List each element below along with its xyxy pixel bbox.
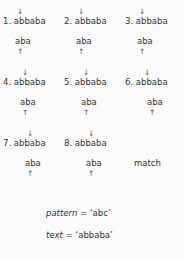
legend-pattern-name: pattern (46, 208, 77, 218)
step-number: 6. (125, 77, 133, 87)
up-arrow-icon: ↑ (83, 109, 89, 116)
step-cell-3: ↓ 3. abbaba aba ↑ (122, 8, 183, 66)
step-text-line: 2. abbaba (64, 16, 107, 27)
step-text-line: 5. abbaba (64, 77, 107, 88)
steps-grid: ↓ 1. abbaba aba ↑ ↓ 2. abbaba aba ↑ ↓ 3.… (0, 8, 183, 191)
step-number: 2. (64, 16, 72, 26)
step-cell-4: ↓ 4. abbaba aba ↑ (0, 69, 61, 127)
up-arrow-icon: ↑ (17, 48, 23, 55)
legend-text-value: ‘abbaba’ (75, 230, 112, 240)
legend-text-equals: = (63, 230, 76, 240)
step-text-line: 8. abbaba (64, 138, 107, 149)
legend-pattern-equals: = (77, 208, 90, 218)
pattern-window: aba (86, 158, 102, 169)
down-arrow-icon: ↓ (139, 8, 145, 15)
down-arrow-icon: ↓ (144, 69, 150, 76)
legend-pattern-line: pattern = ‘abc’ (46, 208, 183, 219)
pattern-window: aba (76, 36, 92, 47)
up-arrow-icon: ↑ (22, 109, 28, 116)
up-arrow-icon: ↑ (78, 48, 84, 55)
step-cell-2: ↓ 2. abbaba aba ↑ (61, 8, 122, 66)
step-text: abbaba (75, 138, 107, 148)
step-cell-1: ↓ 1. abbaba aba ↑ (0, 8, 61, 66)
step-text-line: 4. abbaba (3, 77, 46, 88)
step-cell-8: ↓ 8. abbaba aba ↑ (61, 130, 122, 188)
steps-row: ↓ 4. abbaba aba ↑ ↓ 5. abbaba aba ↑ ↓ 6.… (0, 69, 183, 127)
step-text: abbaba (14, 138, 46, 148)
step-text: abbaba (136, 77, 168, 87)
step-number: 7. (3, 138, 11, 148)
pattern-window: aba (137, 36, 153, 47)
up-arrow-icon: ↑ (149, 109, 155, 116)
down-arrow-icon: ↓ (83, 69, 89, 76)
legend-pattern-value: ‘abc’ (90, 208, 111, 218)
up-arrow-icon: ↑ (139, 48, 145, 55)
up-arrow-icon: ↑ (27, 170, 33, 177)
step-text: abbaba (75, 16, 107, 26)
down-arrow-icon: ↓ (78, 8, 84, 15)
steps-row: ↓ 7. abbaba aba ↑ ↓ 8. abbaba aba ↑ matc… (0, 130, 183, 188)
step-text: abbaba (14, 77, 46, 87)
step-text: abbaba (75, 77, 107, 87)
pattern-window: aba (147, 97, 163, 108)
step-number: 3. (125, 16, 133, 26)
down-arrow-icon: ↓ (17, 8, 23, 15)
match-label: match (134, 158, 161, 169)
pattern-window: aba (81, 97, 97, 108)
pattern-window: aba (20, 97, 36, 108)
step-cell-6: ↓ 6. abbaba aba ↑ (122, 69, 183, 127)
step-number: 4. (3, 77, 11, 87)
legend-text-name: text (46, 230, 63, 240)
step-text-line: 6. abbaba (125, 77, 168, 88)
step-number: 5. (64, 77, 72, 87)
legend: pattern = ‘abc’ text = ‘abbaba’ (0, 208, 183, 252)
up-arrow-icon: ↑ (88, 170, 94, 177)
step-cell-7: ↓ 7. abbaba aba ↑ (0, 130, 61, 188)
down-arrow-icon: ↓ (22, 69, 28, 76)
legend-text-line: text = ‘abbaba’ (46, 230, 183, 241)
pattern-window: aba (25, 158, 41, 169)
pattern-window: aba (15, 36, 31, 47)
step-text-line: 7. abbaba (3, 138, 46, 149)
string-matching-diagram: ↓ 1. abbaba aba ↑ ↓ 2. abbaba aba ↑ ↓ 3.… (0, 0, 183, 260)
step-cell-5: ↓ 5. abbaba aba ↑ (61, 69, 122, 127)
step-number: 8. (64, 138, 72, 148)
step-text-line: 3. abbaba (125, 16, 168, 27)
match-cell: match (122, 130, 183, 188)
step-text-line: 1. abbaba (3, 16, 46, 27)
step-number: 1. (3, 16, 11, 26)
steps-row: ↓ 1. abbaba aba ↑ ↓ 2. abbaba aba ↑ ↓ 3.… (0, 8, 183, 66)
step-text: abbaba (14, 16, 46, 26)
step-text: abbaba (136, 16, 168, 26)
down-arrow-icon: ↓ (27, 130, 33, 137)
down-arrow-icon: ↓ (88, 130, 94, 137)
